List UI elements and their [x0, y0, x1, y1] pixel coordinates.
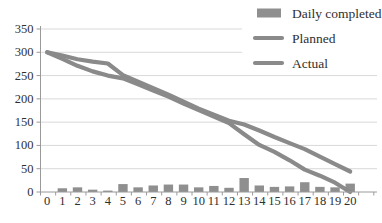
bar-day-14: [255, 185, 264, 192]
y-axis-labels: 050100150200250300350: [15, 22, 34, 199]
x-tick-label: 0: [44, 194, 50, 208]
bar-day-10: [194, 187, 203, 192]
bar-day-9: [179, 185, 188, 192]
x-tick-label: 19: [329, 194, 342, 208]
series-daily-completed-bars: [58, 178, 355, 192]
x-tick-label: 11: [208, 194, 220, 208]
y-tick-label: 100: [15, 138, 34, 152]
bar-day-6: [133, 187, 142, 192]
x-tick-label: 9: [180, 194, 186, 208]
x-tick-label: 13: [238, 194, 251, 208]
bar-day-1: [58, 188, 67, 192]
x-tick-label: 3: [90, 194, 96, 208]
x-tick-label: 12: [223, 194, 236, 208]
x-tick-label: 1: [59, 194, 65, 208]
y-tick-label: 300: [15, 45, 34, 59]
x-tick-label: 15: [268, 194, 281, 208]
x-tick-label: 6: [135, 194, 141, 208]
bar-day-15: [270, 187, 279, 192]
x-tick-label: 5: [120, 194, 126, 208]
bar-day-8: [164, 185, 173, 192]
legend: Daily completedPlannedActual: [242, 0, 382, 72]
bar-day-13: [239, 178, 248, 192]
y-tick-label: 150: [15, 115, 34, 129]
x-tick-label: 4: [105, 194, 112, 208]
x-axis-labels: 01234567891011121314151617181920: [44, 194, 356, 208]
x-tick-label: 10: [192, 194, 205, 208]
x-tick-label: 14: [253, 194, 266, 208]
bar-day-16: [285, 186, 294, 192]
bar-day-11: [209, 186, 218, 192]
bar-day-17: [300, 182, 309, 192]
chart-canvas: 0501001502002503003500123456789101112131…: [0, 0, 382, 223]
legend-label: Planned: [292, 31, 336, 46]
legend-label: Actual: [292, 56, 328, 71]
y-tick-label: 50: [21, 162, 34, 176]
x-tick-label: 17: [299, 194, 312, 208]
bar-day-5: [118, 184, 127, 192]
y-tick-label: 350: [15, 22, 34, 36]
x-tick-label: 7: [150, 194, 156, 208]
x-tick-label: 16: [283, 194, 296, 208]
x-tick-label: 2: [74, 194, 80, 208]
burndown-chart-figure: 0501001502002503003500123456789101112131…: [0, 0, 382, 223]
bar-day-7: [149, 185, 158, 192]
bar-day-2: [73, 187, 82, 192]
x-tick-label: 20: [344, 194, 357, 208]
bar-day-18: [315, 187, 324, 192]
legend-swatch-bar: [257, 9, 281, 18]
y-tick-label: 200: [15, 92, 34, 106]
legend-label: Daily completed: [292, 6, 382, 21]
y-tick-label: 0: [27, 185, 33, 199]
bar-day-12: [224, 188, 233, 192]
bar-day-19: [330, 187, 339, 192]
y-tick-label: 250: [15, 69, 34, 83]
x-tick-label: 18: [314, 194, 327, 208]
x-tick-label: 8: [165, 194, 171, 208]
